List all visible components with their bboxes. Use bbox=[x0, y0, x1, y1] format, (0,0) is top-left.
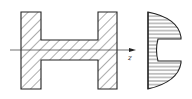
axis-arrow-icon bbox=[129, 48, 136, 52]
diagram-canvas: z bbox=[0, 0, 192, 99]
i-beam-cross-section bbox=[21, 12, 117, 89]
z-axis-label: z bbox=[127, 54, 132, 62]
shear-stress-distribution bbox=[148, 12, 181, 89]
